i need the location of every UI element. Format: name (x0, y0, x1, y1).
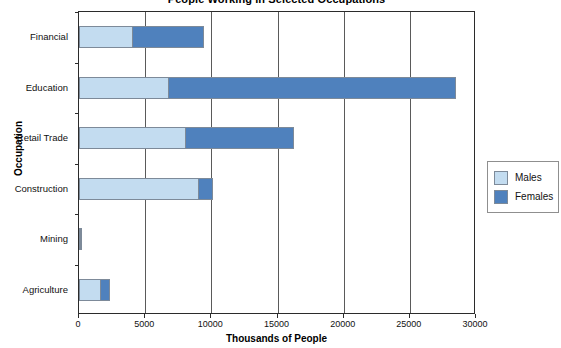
bar-segment-females (132, 26, 203, 48)
stacked-bar (79, 228, 82, 250)
legend-swatch-icon (494, 190, 508, 204)
legend-item-females[interactable]: Females (494, 187, 553, 206)
stacked-bar (79, 178, 213, 200)
x-axis-tick (144, 314, 145, 318)
x-axis-tick-label: 15000 (264, 319, 289, 329)
bar-group (79, 164, 474, 215)
plot-area (78, 11, 475, 314)
bar-segment-females (168, 77, 456, 99)
bar-segment-males (79, 279, 101, 301)
x-axis-tick-label: 25000 (396, 319, 421, 329)
legend-swatch-icon (494, 171, 508, 185)
x-axis-tick (475, 314, 476, 318)
bar-segment-males (79, 127, 186, 149)
stacked-bar (79, 127, 294, 149)
y-axis-tick (75, 63, 79, 64)
chart-legend: MalesFemales (487, 161, 559, 213)
bar-group (79, 113, 474, 164)
stacked-bar (79, 279, 110, 301)
stacked-bar (79, 77, 456, 99)
bar-group (79, 63, 474, 114)
bar-segment-females (198, 178, 213, 200)
x-axis-tick-label: 30000 (462, 319, 487, 329)
x-axis-tick-label: 5000 (134, 319, 154, 329)
y-axis-tick-labels: AgricultureMiningConstructionRetail Trad… (0, 11, 74, 314)
x-axis-tick-label: 10000 (198, 319, 223, 329)
bar-segment-males (79, 77, 169, 99)
x-axis-tick (277, 314, 278, 318)
bar-group (79, 214, 474, 265)
bar-segment-females (185, 127, 294, 149)
y-axis-tick (75, 265, 79, 266)
x-axis: Thousands of People 05000100001500020000… (78, 314, 475, 348)
legend-label: Females (515, 191, 553, 202)
x-axis-tick (210, 314, 211, 318)
y-axis-tick (75, 214, 79, 215)
x-axis-tick-label: 0 (75, 319, 80, 329)
y-axis-label-retail-trade: Retail Trade (0, 132, 68, 143)
bar-segment-females (100, 279, 110, 301)
bar-segment-males (79, 178, 199, 200)
y-axis-tick (75, 12, 79, 13)
x-axis-tick (409, 314, 410, 318)
legend-label: Males (515, 172, 542, 183)
y-axis-label-financial: Financial (0, 31, 68, 42)
x-axis-tick (343, 314, 344, 318)
y-axis-title: Occupation (13, 79, 24, 219)
bar-segment-females (80, 228, 82, 250)
bar-group (79, 12, 474, 63)
chart-title: People Working in Selected Occupations (78, 0, 475, 5)
legend-item-males[interactable]: Males (494, 168, 553, 187)
x-axis-tick (78, 314, 79, 318)
x-axis-title: Thousands of People (78, 333, 475, 344)
bar-segment-males (79, 26, 133, 48)
bar-group (79, 265, 474, 316)
x-axis-tick-label: 20000 (330, 319, 355, 329)
stacked-bar (79, 26, 204, 48)
y-axis-label-mining: Mining (0, 233, 68, 244)
y-axis-tick (75, 164, 79, 165)
y-axis-tick (75, 113, 79, 114)
chart-figure: People Working in Selected Occupations A… (0, 0, 561, 348)
y-axis-label-agriculture: Agriculture (0, 283, 68, 294)
y-axis-label-construction: Construction (0, 182, 68, 193)
y-axis-label-education: Education (0, 81, 68, 92)
